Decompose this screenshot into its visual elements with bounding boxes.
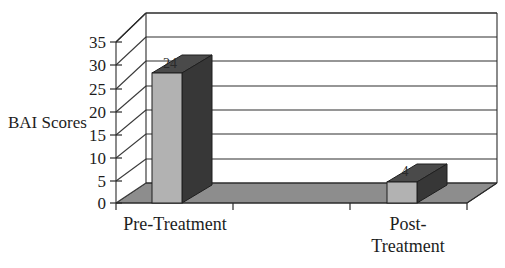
ytick-label-30: 30 xyxy=(89,56,106,75)
bar-1-side-face xyxy=(182,55,212,203)
x-category-label-post-treatment-line2: Treatment xyxy=(371,236,444,256)
ytick-label-25: 25 xyxy=(89,80,106,99)
y-axis-title: BAI Scores xyxy=(8,113,87,132)
bar-1-front-face xyxy=(152,73,182,203)
bar-1-value-label: 24 xyxy=(163,56,177,71)
bar-chart-figure: 0 5 10 15 20 25 30 35 BAI Scores xyxy=(0,0,505,268)
ytick-label-10: 10 xyxy=(89,149,106,168)
bar-pre-treatment xyxy=(152,55,212,203)
ytick-label-15: 15 xyxy=(89,126,106,145)
ytick-label-0: 0 xyxy=(98,194,107,213)
ytick-label-5: 5 xyxy=(98,172,107,191)
bar-2-front-face xyxy=(387,182,417,203)
chart-canvas: 0 5 10 15 20 25 30 35 BAI Scores xyxy=(0,0,505,268)
y-axis-tick-labels: 0 5 10 15 20 25 30 35 xyxy=(89,33,106,213)
ytick-label-35: 35 xyxy=(89,33,106,52)
x-category-label-pre-treatment: Pre-Treatment xyxy=(123,214,226,234)
x-category-label-post-treatment-line1: Post- xyxy=(389,214,426,234)
bar-2-value-label: 4 xyxy=(402,164,409,179)
x-axis-ticks xyxy=(116,203,467,210)
ytick-label-20: 20 xyxy=(89,103,106,122)
